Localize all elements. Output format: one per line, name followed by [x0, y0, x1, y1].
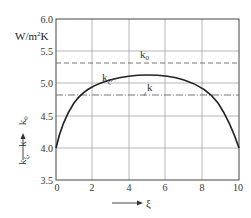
x-axis-label: ξ — [146, 197, 151, 210]
plot-frame — [56, 19, 239, 180]
svg-text:6.0: 6.0 — [41, 14, 54, 25]
svg-text:8: 8 — [200, 182, 205, 193]
svg-text:6: 6 — [163, 182, 168, 193]
svg-text:4: 4 — [127, 182, 132, 193]
kxi-annotation: kξ — [102, 71, 111, 85]
svg-text:4.0: 4.0 — [41, 143, 54, 154]
svg-text:3.5: 3.5 — [41, 175, 54, 186]
x-tick-labels: 0 2 4 6 8 10 — [55, 182, 244, 193]
k0-annotation: k0 — [140, 48, 150, 62]
grid — [56, 19, 239, 180]
chart: 6.0 5.5 5.0 4.5 4.0 3.5 0 2 4 6 8 10 W/m… — [0, 0, 251, 218]
k-annotation: k — [147, 81, 153, 93]
y-unit-label: W/m2K — [15, 30, 49, 42]
svg-text:0: 0 — [55, 182, 60, 193]
svg-text:5.5: 5.5 — [41, 46, 54, 57]
svg-text:5.0: 5.0 — [41, 78, 54, 89]
svg-text:10: 10 — [233, 182, 243, 193]
x-arrow-icon — [112, 201, 143, 206]
svg-text:4.5: 4.5 — [41, 111, 54, 122]
svg-text:2: 2 — [90, 182, 95, 193]
